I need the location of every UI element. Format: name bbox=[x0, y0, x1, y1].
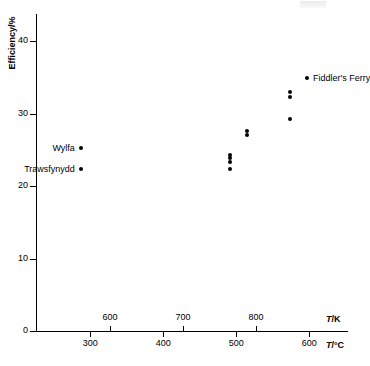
x-axis-kelvin-tick bbox=[183, 326, 184, 331]
x-axis-line bbox=[36, 331, 348, 332]
x-axis-celsius-tick bbox=[163, 332, 164, 337]
y-axis-tick bbox=[30, 114, 36, 115]
data-point bbox=[228, 167, 232, 171]
data-point bbox=[79, 146, 83, 150]
y-axis-tick-label: 20 bbox=[0, 181, 28, 190]
x-axis-celsius-tick-label: 400 bbox=[143, 339, 183, 348]
data-point bbox=[288, 95, 292, 99]
y-axis-tick-label: 30 bbox=[0, 109, 28, 118]
data-point bbox=[305, 76, 309, 80]
x-axis-celsius-unit: /°C bbox=[332, 340, 345, 350]
x-axis-kelvin-tick bbox=[110, 326, 111, 331]
data-point-label: Fiddler's Ferry bbox=[313, 74, 370, 83]
y-axis-tick-label: 0 bbox=[0, 326, 28, 335]
data-point bbox=[288, 117, 292, 121]
y-axis-tick bbox=[30, 331, 36, 332]
x-axis-celsius-tick-label: 600 bbox=[289, 339, 329, 348]
page-edge-artifact bbox=[300, 1, 326, 8]
data-point bbox=[245, 133, 249, 137]
y-axis-tick-label: 10 bbox=[0, 254, 28, 263]
y-axis-tick bbox=[30, 41, 36, 42]
y-axis-tick bbox=[30, 186, 36, 187]
x-axis-kelvin-unit: /K bbox=[332, 314, 341, 324]
y-axis-tick-label: 40 bbox=[0, 36, 28, 45]
x-axis-celsius-tick bbox=[309, 332, 310, 337]
x-axis-celsius-tick bbox=[236, 332, 237, 337]
y-axis-tick bbox=[30, 259, 36, 260]
x-axis-kelvin-tick-label: 700 bbox=[163, 313, 203, 322]
data-point bbox=[245, 129, 249, 133]
x-axis-kelvin-tick-label: 800 bbox=[236, 313, 276, 322]
data-point bbox=[79, 167, 83, 171]
data-point bbox=[228, 160, 232, 164]
x-axis-kelvin-tick-label: 600 bbox=[90, 313, 130, 322]
data-point bbox=[288, 90, 292, 94]
data-point-label: Wylfa bbox=[52, 144, 74, 153]
data-point-label: Trawsfynydd bbox=[24, 165, 75, 174]
x-axis-celsius-tick-label: 500 bbox=[216, 339, 256, 348]
x-axis-celsius-tick bbox=[90, 332, 91, 337]
x-axis-kelvin-title: T/K bbox=[326, 314, 341, 324]
x-axis-celsius-tick-label: 300 bbox=[70, 339, 110, 348]
x-axis-kelvin-tick bbox=[256, 326, 257, 331]
